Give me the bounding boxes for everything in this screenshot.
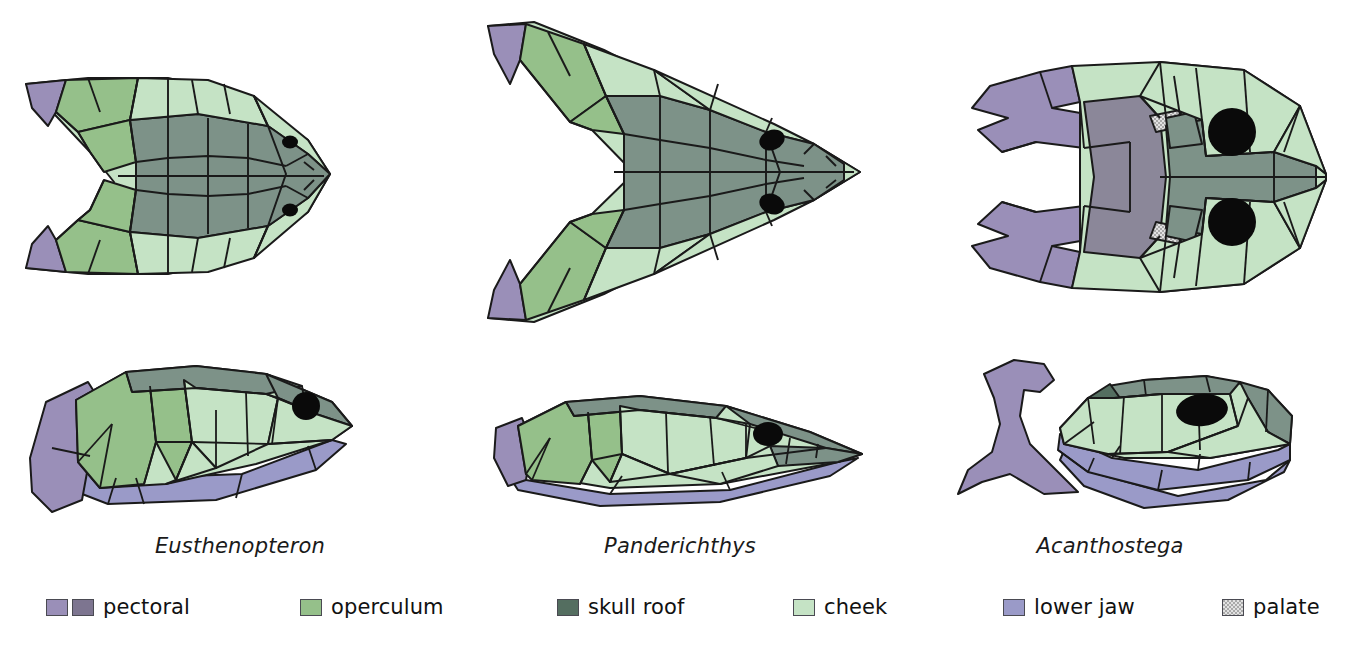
legend-item-palate: palate <box>1222 592 1320 622</box>
legend-item-lower-jaw: lower jaw <box>1003 592 1135 622</box>
legend-swatch-palate <box>1222 599 1244 616</box>
legend-swatches-operculum <box>300 599 322 616</box>
legend-swatches-cheek <box>793 599 815 616</box>
acanthostega-dorsal-svg <box>944 56 1336 298</box>
legend-swatches-pectoral <box>46 599 94 616</box>
panel-panderichthys-dorsal <box>474 14 874 332</box>
legend-swatch-skull-roof <box>557 599 579 616</box>
legend-label-skull-roof: skull roof <box>588 597 684 618</box>
species-label-acanthostega: Acanthostega <box>930 534 1290 558</box>
eusthenopteron-lateral-svg <box>16 352 356 524</box>
orbit-left <box>1208 108 1256 156</box>
legend: pectoral operculum skull roof cheek lowe <box>0 592 1354 636</box>
pectoral-girdle-lower <box>972 202 1086 288</box>
orbit-left <box>282 136 298 149</box>
orbit-right <box>282 204 298 217</box>
panel-panderichthys-lateral <box>470 388 870 516</box>
panel-eusthenopteron-dorsal <box>18 62 338 292</box>
eusthenopteron-dorsal-svg <box>18 62 338 292</box>
legend-label-palate: palate <box>1253 597 1320 618</box>
skull-evolution-figure: Eusthenopteron Panderichthys Acanthosteg… <box>0 0 1354 656</box>
legend-swatch-pectoral-dark <box>72 599 94 616</box>
species-label-eusthenopteron: Eusthenopteron <box>60 534 420 558</box>
orbit <box>753 422 783 446</box>
orbit-right <box>1208 198 1256 246</box>
panel-acanthostega-dorsal <box>944 56 1336 298</box>
legend-swatch-pectoral-light <box>46 599 68 616</box>
legend-swatches-palate <box>1222 599 1244 616</box>
legend-item-operculum: operculum <box>300 592 444 622</box>
legend-swatches-lower-jaw <box>1003 599 1025 616</box>
panel-acanthostega-lateral <box>948 354 1294 524</box>
panderichthys-dorsal-svg <box>474 14 874 332</box>
legend-swatch-lower-jaw <box>1003 599 1025 616</box>
panel-eusthenopteron-lateral <box>16 352 356 524</box>
legend-item-skull-roof: skull roof <box>557 592 684 622</box>
pectoral-girdle-upper <box>972 66 1086 152</box>
legend-swatches-skull-roof <box>557 599 579 616</box>
legend-label-lower-jaw: lower jaw <box>1034 597 1135 618</box>
species-label-row: Eusthenopteron Panderichthys Acanthosteg… <box>0 534 1354 568</box>
legend-label-operculum: operculum <box>331 597 444 618</box>
legend-item-cheek: cheek <box>793 592 887 622</box>
orbit <box>292 392 320 420</box>
species-label-panderichthys: Panderichthys <box>510 534 850 558</box>
legend-swatch-cheek <box>793 599 815 616</box>
acanthostega-lateral-svg <box>948 354 1294 524</box>
legend-swatch-operculum <box>300 599 322 616</box>
panderichthys-lateral-svg <box>470 388 870 516</box>
legend-label-cheek: cheek <box>824 597 887 618</box>
legend-item-pectoral: pectoral <box>46 592 190 622</box>
legend-label-pectoral: pectoral <box>103 597 190 618</box>
